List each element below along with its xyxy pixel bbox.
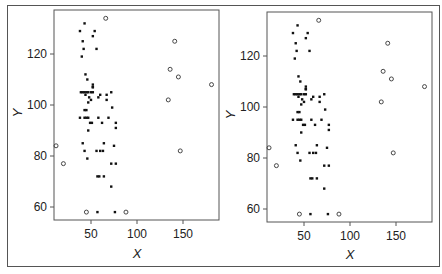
filled-data-point bbox=[299, 80, 301, 82]
filled-data-point bbox=[87, 117, 89, 119]
open-data-point bbox=[379, 100, 383, 104]
filled-data-point bbox=[293, 93, 295, 95]
filled-data-point bbox=[298, 111, 300, 113]
filled-data-point bbox=[87, 91, 89, 93]
filled-data-point bbox=[295, 144, 297, 146]
filled-data-point bbox=[305, 93, 307, 95]
filled-data-point bbox=[327, 213, 329, 215]
open-data-point bbox=[173, 39, 177, 43]
open-data-point bbox=[61, 162, 65, 166]
filled-data-point bbox=[87, 101, 89, 103]
filled-data-point bbox=[92, 35, 94, 37]
filled-data-point bbox=[115, 122, 117, 124]
filled-data-point bbox=[84, 94, 86, 96]
filled-data-point bbox=[86, 157, 88, 159]
filled-data-point bbox=[318, 101, 320, 103]
filled-data-point bbox=[105, 94, 107, 96]
x-tick-label: 150 bbox=[173, 227, 193, 241]
x-tick-label: 150 bbox=[386, 229, 406, 243]
left-x-axis-title: X bbox=[132, 246, 143, 261]
filled-data-point bbox=[316, 177, 318, 179]
open-data-point bbox=[317, 18, 321, 22]
filled-data-point bbox=[82, 40, 84, 42]
right-x-axis: 50100150 bbox=[297, 222, 406, 243]
filled-data-point bbox=[292, 119, 294, 121]
open-data-point bbox=[124, 210, 128, 214]
filled-data-point bbox=[87, 129, 89, 131]
open-data-point bbox=[386, 41, 390, 45]
filled-data-point bbox=[314, 124, 316, 126]
filled-data-point bbox=[98, 175, 100, 177]
filled-data-point bbox=[297, 75, 299, 77]
open-data-point bbox=[210, 83, 214, 87]
filled-data-point bbox=[320, 119, 322, 121]
filled-data-point bbox=[79, 30, 81, 32]
filled-data-point bbox=[292, 32, 294, 34]
filled-data-point bbox=[115, 127, 117, 129]
right-y-axis: 6080100120 bbox=[240, 49, 267, 216]
filled-data-point bbox=[300, 103, 302, 105]
filled-data-point bbox=[110, 91, 112, 93]
filled-data-point bbox=[310, 98, 312, 100]
filled-data-point bbox=[323, 187, 325, 189]
open-data-point bbox=[337, 212, 341, 216]
filled-data-point bbox=[315, 152, 317, 154]
y-tick-label: 60 bbox=[247, 202, 261, 216]
filled-data-point bbox=[91, 122, 93, 124]
filled-data-point bbox=[318, 96, 320, 98]
filled-data-point bbox=[92, 86, 94, 88]
filled-data-point bbox=[83, 22, 85, 24]
filled-data-point bbox=[110, 185, 112, 187]
filled-data-point bbox=[83, 150, 85, 152]
filled-data-point bbox=[299, 159, 301, 161]
left-y-axis: 6080100120 bbox=[27, 47, 54, 214]
filled-data-point bbox=[305, 37, 307, 39]
scatter-figure: 6080100120 50100150 X Y 6080100120 50100… bbox=[0, 0, 442, 274]
filled-data-point bbox=[316, 144, 318, 146]
y-tick-label: 60 bbox=[34, 200, 48, 214]
open-data-point bbox=[267, 146, 271, 150]
filled-data-point bbox=[95, 150, 97, 152]
filled-data-point bbox=[328, 129, 330, 131]
open-data-point bbox=[104, 16, 108, 20]
y-tick-label: 80 bbox=[247, 151, 261, 165]
filled-data-point bbox=[300, 93, 302, 95]
filled-data-point bbox=[79, 117, 81, 119]
filled-data-point bbox=[296, 152, 298, 154]
left-plot-box bbox=[54, 10, 219, 220]
filled-data-point bbox=[300, 131, 302, 133]
filled-data-point bbox=[88, 96, 90, 98]
filled-data-point bbox=[105, 99, 107, 101]
filled-data-point bbox=[103, 175, 105, 177]
right-data-points bbox=[267, 18, 426, 216]
right-scatter-panel: 6080100120 50100150 X Y bbox=[223, 12, 432, 262]
left-y-axis-title: Y bbox=[10, 107, 25, 117]
filled-data-point bbox=[328, 124, 330, 126]
filled-data-point bbox=[114, 211, 116, 213]
right-x-axis-title: X bbox=[345, 247, 356, 262]
filled-data-point bbox=[323, 164, 325, 166]
y-tick-label: 80 bbox=[34, 149, 48, 163]
filled-data-point bbox=[323, 93, 325, 95]
filled-data-point bbox=[113, 145, 115, 147]
filled-data-point bbox=[309, 213, 311, 215]
y-tick-label: 120 bbox=[240, 49, 260, 63]
filled-data-point bbox=[305, 88, 307, 90]
left-data-points bbox=[54, 16, 213, 214]
filled-data-point bbox=[324, 108, 326, 110]
x-tick-label: 100 bbox=[340, 229, 360, 243]
filled-data-point bbox=[110, 162, 112, 164]
filled-data-point bbox=[295, 42, 297, 44]
filled-data-point bbox=[294, 57, 296, 59]
filled-data-point bbox=[304, 124, 306, 126]
open-data-point bbox=[84, 210, 88, 214]
open-data-point bbox=[54, 144, 58, 148]
open-data-point bbox=[176, 75, 180, 79]
filled-data-point bbox=[99, 150, 101, 152]
filled-data-point bbox=[308, 152, 310, 154]
filled-data-point bbox=[92, 91, 94, 93]
right-plot-box bbox=[267, 12, 432, 222]
filled-data-point bbox=[301, 98, 303, 100]
filled-data-point bbox=[326, 147, 328, 149]
filled-data-point bbox=[296, 24, 298, 26]
